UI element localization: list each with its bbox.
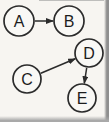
node-label-B: B: [64, 13, 75, 30]
node-C: C: [13, 65, 41, 93]
node-label-A: A: [14, 13, 25, 30]
node-B: B: [54, 6, 84, 36]
photo-edge-shadow-bottom: [0, 116, 109, 122]
edge-D-E: [84, 68, 86, 83]
node-A: A: [4, 6, 34, 36]
nodes-layer: ABCDE: [4, 6, 103, 112]
photo-edge-shadow-right: [104, 0, 109, 122]
photo-edge-shadow-top: [39, 0, 104, 1]
node-E: E: [68, 84, 96, 112]
node-label-D: D: [83, 45, 95, 62]
node-D: D: [75, 39, 103, 67]
edge-C-D: [41, 59, 75, 73]
diagram-page: ABCDE: [0, 0, 109, 122]
node-label-E: E: [77, 90, 88, 107]
directed-graph-canvas: ABCDE: [0, 0, 109, 122]
node-label-C: C: [21, 71, 33, 88]
